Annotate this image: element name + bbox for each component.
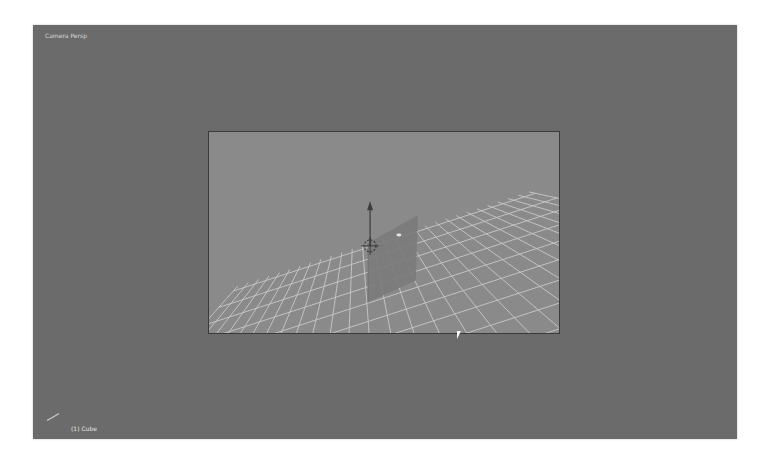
grid-line [529,132,559,333]
3d-viewport[interactable]: Camera Persp (1) Cube [33,25,737,439]
grid-line [467,132,559,333]
grid-line [425,132,559,333]
active-object-label: (1) Cube [71,425,97,432]
mouse-pointer-icon [457,331,461,339]
scene-render [209,132,559,333]
grid-line [435,132,559,333]
camera-view-frame[interactable] [208,131,560,334]
grid-line [456,132,559,333]
grid-line [209,325,559,333]
grid-line [519,132,559,333]
axis-indicator-icon [47,413,60,421]
grid-line [404,172,559,333]
grid-line [209,290,559,333]
gizmo-arrow-head [367,201,373,210]
view-mode-label: Camera Persp [45,32,87,39]
grid-line [394,205,559,333]
floor-grid [209,132,559,333]
grid-line [446,132,559,333]
grid-line [498,132,559,333]
light-glint [396,233,401,236]
grid-line [487,132,559,333]
grid-line [508,132,559,333]
grid-line [209,306,559,333]
